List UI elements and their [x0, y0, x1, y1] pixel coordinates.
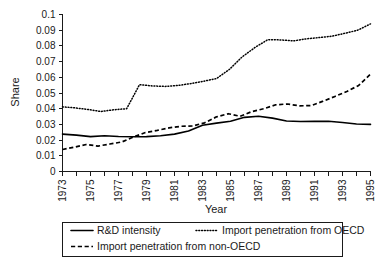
- y-tick-label: 0.02: [36, 135, 56, 146]
- x-tick-label: 1977: [113, 179, 124, 202]
- x-tick-label: 1979: [141, 179, 152, 202]
- x-tick-label: 1989: [281, 179, 292, 202]
- x-tick-label: 1985: [225, 179, 236, 202]
- x-tick-label: 1973: [57, 179, 68, 202]
- x-tick-label: 1993: [337, 179, 348, 202]
- y-tick-label: 0.06: [36, 72, 56, 83]
- y-tick-label: 0.08: [36, 40, 56, 51]
- x-tick-label: 1983: [197, 179, 208, 202]
- x-tick-label: 1981: [169, 179, 180, 202]
- x-tick-label: 1975: [85, 179, 96, 202]
- x-tick-label: 1995: [365, 179, 376, 202]
- series-line-2: [63, 74, 371, 149]
- x-tick-label: 1987: [253, 179, 264, 202]
- y-tick-label: 0.04: [36, 103, 56, 114]
- y-axis-title: Share: [9, 77, 21, 106]
- legend-label-1: Import penetration from OECD: [222, 224, 365, 236]
- y-tick-label: 0.05: [36, 88, 56, 99]
- y-tick-labels: 00.010.020.030.040.050.060.070.080.090.1: [36, 9, 56, 177]
- x-tick-label: 1991: [309, 179, 320, 202]
- x-axis-title: Year: [205, 203, 228, 215]
- y-tick-marks: [59, 15, 63, 172]
- line-chart-figure: Share 00.010.020.030.040.050.060.070.080…: [0, 0, 383, 264]
- y-tick-label: 0.03: [36, 119, 56, 130]
- series-line-0: [63, 116, 371, 137]
- x-tick-labels: 1973197519771979198119831985198719891991…: [57, 179, 376, 202]
- legend-label-0: R&D intensity: [97, 224, 161, 236]
- data-series-group: [63, 24, 371, 150]
- y-tick-label: 0.07: [36, 56, 56, 67]
- y-tick-label: 0: [50, 166, 56, 177]
- chart-legend: R&D intensityImport penetration from OEC…: [63, 223, 365, 257]
- series-line-1: [63, 24, 371, 112]
- y-tick-label: 0.1: [42, 9, 56, 20]
- y-tick-label: 0.09: [36, 25, 56, 36]
- legend-label-2: Import penetration from non-OECD: [97, 240, 261, 252]
- x-tick-marks: [63, 172, 371, 176]
- y-tick-label: 0.01: [36, 150, 56, 161]
